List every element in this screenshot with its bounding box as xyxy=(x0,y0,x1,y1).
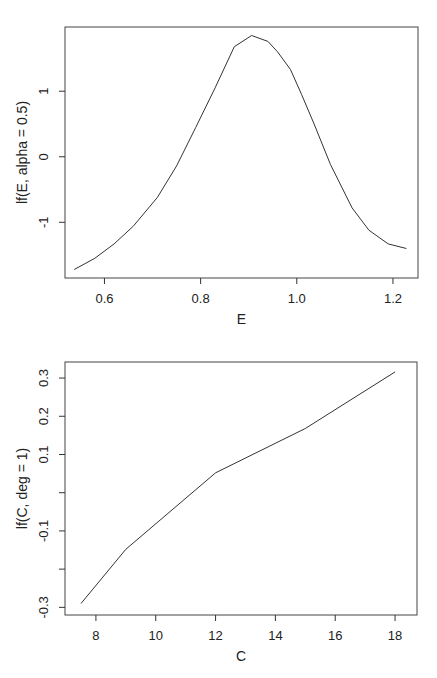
plot-frame xyxy=(65,362,417,615)
x-axis-title: E xyxy=(237,311,246,327)
x-axis-title: C xyxy=(236,648,246,664)
plot-lf-e: 0.60.81.01.2 -101 E lf(E, alpha = 0.5) xyxy=(14,27,418,327)
x-tick-label: 18 xyxy=(388,628,402,643)
y-tick-label: 1 xyxy=(36,88,51,95)
y-axis-title: lf(C, deg = 1) xyxy=(14,448,30,529)
x-tick-label: 1.0 xyxy=(288,291,306,306)
y-axis: -0.3-0.10.10.20.3 xyxy=(36,369,65,619)
x-tick-label: 8 xyxy=(92,628,99,643)
x-axis: 0.60.81.01.2 xyxy=(95,278,402,306)
x-tick-label: 10 xyxy=(149,628,163,643)
y-axis-title: lf(E, alpha = 0.5) xyxy=(14,101,30,204)
figure: 0.60.81.01.2 -101 E lf(E, alpha = 0.5) 8… xyxy=(0,0,437,678)
x-tick-label: 16 xyxy=(328,628,342,643)
y-axis: -101 xyxy=(36,88,65,228)
y-tick-label: 0.3 xyxy=(36,369,51,387)
x-tick-label: 0.8 xyxy=(192,291,210,306)
y-tick-label: -0.3 xyxy=(36,596,51,618)
chart-canvas: 0.60.81.01.2 -101 E lf(E, alpha = 0.5) 8… xyxy=(0,0,437,678)
x-tick-label: 12 xyxy=(208,628,222,643)
x-axis: 81012141618 xyxy=(92,615,402,643)
y-tick-label: 0.1 xyxy=(36,445,51,463)
y-tick-label: -0.1 xyxy=(36,520,51,542)
curve-line xyxy=(74,36,406,270)
x-tick-label: 1.2 xyxy=(384,291,402,306)
x-tick-label: 14 xyxy=(268,628,282,643)
x-tick-label: 0.6 xyxy=(95,291,113,306)
plot-lf-c: 81012141618 -0.3-0.10.10.20.3 C lf(C, de… xyxy=(14,362,417,664)
y-tick-label: 0 xyxy=(36,153,51,160)
curve-line xyxy=(81,372,395,604)
y-tick-label: -1 xyxy=(36,217,51,229)
y-tick-label: 0.2 xyxy=(36,407,51,425)
